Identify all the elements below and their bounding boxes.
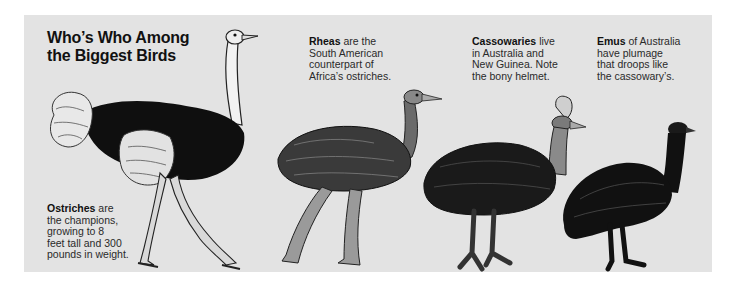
caption-text: counterpart of (309, 59, 391, 71)
cassowary-caption: Cassowaries live in Australia and New Gu… (472, 36, 558, 82)
cassowary-name: Cassowaries (472, 35, 536, 47)
emu-caption: Emus of Australia have plumage that droo… (597, 36, 680, 82)
caption-text: live (536, 35, 555, 47)
caption-text: the bony helmet. (472, 71, 558, 83)
emu-illustration (554, 115, 704, 275)
rhea-name: Rheas (309, 35, 341, 47)
rhea-caption: Rheas are the South American counterpart… (309, 36, 391, 82)
caption-text: that droops like (597, 59, 680, 71)
caption-text: of Australia (626, 35, 681, 47)
caption-text: are the (341, 35, 377, 47)
caption-text: New Guinea. Note (472, 59, 558, 71)
emu-name: Emus (597, 35, 626, 47)
caption-text: the cassowary’s. (597, 71, 680, 83)
ostrich-illustration (42, 23, 262, 273)
illustration-panel: Who’s Who Among the Biggest Birds Ostric… (24, 15, 712, 272)
